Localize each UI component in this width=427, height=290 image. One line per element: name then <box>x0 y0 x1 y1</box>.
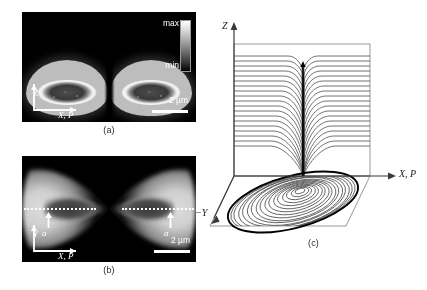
panel-c-diagram: Z X, P −Y <box>200 4 427 264</box>
colorbar-gradient <box>180 20 191 72</box>
panel-b-image: a a Y X, P 2 µm <box>22 156 196 262</box>
panel-b-axis-xp-label: X, P <box>58 251 74 261</box>
panel-b-axis-y-label: Y <box>33 229 38 239</box>
figure-root: max min Z X, P 2 µm (a) <box>0 0 427 290</box>
panel-c-svg <box>200 4 427 264</box>
panel-a-central-notch <box>106 56 113 118</box>
panel-c-axis-z-label: Z <box>222 20 228 31</box>
panel-b-scalebar-label: 2 µm <box>171 235 190 245</box>
panel-c-caption: (c) <box>200 238 427 248</box>
panel-b-scalebar-rule <box>154 250 190 253</box>
panel-c-axis-minus-y-label: −Y <box>195 207 207 218</box>
panel-c-floor-outer-contour <box>222 160 365 245</box>
panel-b-dotted-line-right <box>122 208 194 210</box>
panel-b-marker-arrow-right <box>166 212 175 228</box>
panel-b-marker-label-right: a <box>164 228 169 238</box>
panel-c-vertical-contours <box>234 56 370 176</box>
panel-c-cusp-arrowhead <box>300 61 305 67</box>
panel-a-image: max min Z X, P 2 µm <box>22 12 196 122</box>
colorbar-max-label: max <box>163 18 179 28</box>
colorbar-min-label: min <box>165 60 179 70</box>
panel-c-axis-xp-label: X, P <box>399 168 416 179</box>
panel-b-dotted-line-left <box>24 208 96 210</box>
panel-a-axis-xp-label: X, P <box>58 110 74 120</box>
panel-a-axis-z-label: Z <box>33 88 38 98</box>
panel-c-axis-z <box>231 22 238 176</box>
panel-b-caption: (b) <box>22 265 196 275</box>
panel-a-caption: (a) <box>22 125 196 135</box>
panel-a-scalebar-rule <box>152 110 188 113</box>
panel-a-scalebar-label: 2 µm <box>169 95 188 105</box>
panel-c-axis-xp <box>234 173 396 180</box>
